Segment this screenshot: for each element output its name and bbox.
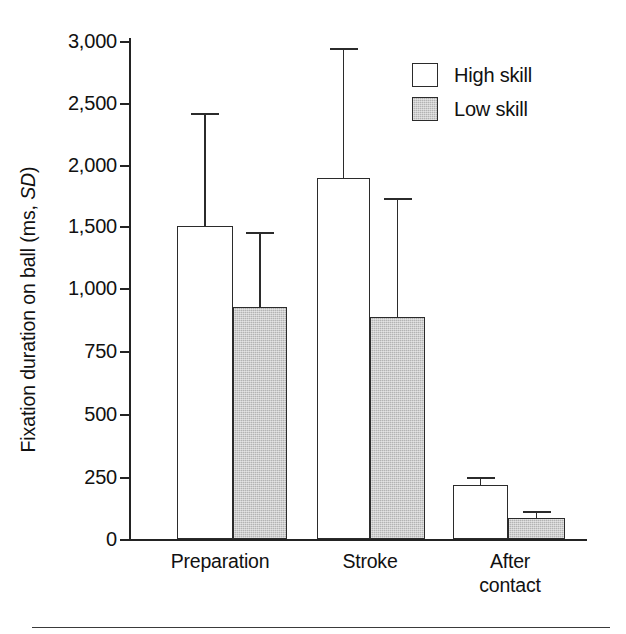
legend-label-low-skill: Low skill xyxy=(454,98,528,121)
y-axis-tick-label: 3,000 xyxy=(68,30,117,53)
y-axis-tick-mark xyxy=(120,41,129,43)
y-axis-title-tail: ) xyxy=(17,167,39,173)
x-axis-label-line: Stroke xyxy=(300,549,440,573)
bar-preparation-high-skill xyxy=(177,226,233,539)
error-bar-stroke-low-skill xyxy=(397,198,399,317)
y-axis-tick-label: 2,500 xyxy=(68,92,117,115)
error-cap-stroke-low-skill xyxy=(384,198,412,200)
y-axis-tick-label: 2,000 xyxy=(68,154,117,177)
y-axis-tick-mark xyxy=(120,414,129,416)
figure-bar-chart: Fixation duration on ball (ms, SD) 3,000… xyxy=(0,0,626,634)
error-bar-preparation-low-skill xyxy=(259,232,261,307)
bar-after-contact-high-skill xyxy=(453,485,508,539)
y-axis-tick-mark xyxy=(120,103,129,105)
y-axis-tick-label: 1,000 xyxy=(68,277,117,300)
error-bar-preparation-high-skill xyxy=(204,113,206,226)
y-axis-title-sd: SD xyxy=(17,173,39,200)
y-axis-tick-mark xyxy=(120,288,129,290)
y-axis-tick-label: 0 xyxy=(106,528,117,551)
x-axis-label-line: Preparation xyxy=(150,549,290,573)
error-cap-stroke-high-skill xyxy=(330,48,358,50)
x-axis-label-after-contact: Aftercontact xyxy=(440,549,580,597)
x-axis-label-stroke: Stroke xyxy=(300,549,440,573)
y-axis-tick-mark xyxy=(120,351,129,353)
y-axis-title: Fixation duration on ball (ms, SD) xyxy=(17,100,40,520)
bottom-divider xyxy=(32,627,610,628)
legend-item-low-skill[interactable]: Low skill xyxy=(412,92,532,126)
y-axis-tick-label: 1,500 xyxy=(68,215,117,238)
bar-stroke-low-skill xyxy=(370,317,425,539)
y-axis-tick-mark xyxy=(120,226,129,228)
y-axis-tick-mark xyxy=(120,477,129,479)
legend-swatch-low-skill-icon xyxy=(412,97,438,121)
y-axis-tick-mark xyxy=(120,539,129,541)
bar-stroke-high-skill xyxy=(317,178,370,539)
bar-after-contact-low-skill xyxy=(508,518,565,539)
legend-item-high-skill[interactable]: High skill xyxy=(412,58,532,92)
x-axis-label-preparation: Preparation xyxy=(150,549,290,573)
legend: High skill Low skill xyxy=(412,58,532,126)
error-cap-preparation-high-skill xyxy=(191,113,219,115)
x-axis-label-line: After xyxy=(440,549,580,573)
y-axis-title-text: Fixation duration on ball (ms, xyxy=(17,200,39,453)
y-axis-tick-label: 500 xyxy=(84,403,117,426)
error-cap-preparation-low-skill xyxy=(246,232,274,234)
legend-swatch-high-skill-icon xyxy=(412,63,438,87)
error-cap-after-contact-high-skill xyxy=(467,477,495,479)
x-axis-label-line: contact xyxy=(440,573,580,597)
y-axis-tick-mark xyxy=(120,165,129,167)
error-cap-after-contact-low-skill xyxy=(523,511,551,513)
bar-preparation-low-skill xyxy=(233,307,287,539)
error-bar-stroke-high-skill xyxy=(343,48,345,178)
y-axis-tick-label: 750 xyxy=(84,340,117,363)
legend-label-high-skill: High skill xyxy=(454,64,532,87)
y-axis-tick-label: 250 xyxy=(84,466,117,489)
